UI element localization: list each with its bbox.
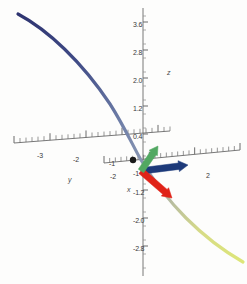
y-tick-label: -2 [73,156,79,163]
plot-graphics [0,0,247,284]
x-tick-label: 2 [206,172,210,179]
z-tick-label: 1.2 [133,105,142,112]
x-tick-label: -1 [133,170,139,177]
space-curve [18,14,243,262]
y-tick-label: -1 [109,160,115,167]
x-axis-label: x [127,186,131,193]
y-axis-label: y [68,176,72,183]
z-tick-label: -1.2 [133,189,144,196]
x-tick-label: -2 [110,173,116,180]
z-tick-label: 2.8 [133,49,142,56]
curve-point [130,157,136,163]
y-tick-label: -3 [37,152,43,159]
plot-canvas: 3.62.82.01.20.4-1.2-2.0-2.8z-3-2-1y-2-12… [0,0,247,284]
z-tick-label: -2.0 [133,217,144,224]
z-tick-label: -2.8 [133,245,144,252]
z-tick-label: 3.6 [133,21,142,28]
z-axis-label: z [167,69,171,76]
z-tick-label: 2.0 [133,77,142,84]
z-tick-label: 0.4 [133,133,142,140]
